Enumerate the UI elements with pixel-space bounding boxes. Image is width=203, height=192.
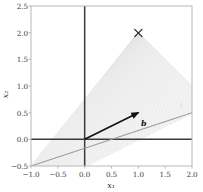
y-tick-label: 1.0 xyxy=(8,82,28,91)
y-tick-label: 2.5 xyxy=(8,2,28,11)
x-tick-label: 1.0 xyxy=(133,170,144,179)
x-axis-title: x₁ xyxy=(107,181,115,190)
y-tick-label: 1.5 xyxy=(8,55,28,64)
y-tick-label: −0.5 xyxy=(8,162,28,171)
plot-canvas xyxy=(0,0,203,192)
x-tick-label: 1.5 xyxy=(160,170,171,179)
y-tick-label: 0.5 xyxy=(8,108,28,117)
x-tick-label: −1.0 xyxy=(22,170,39,179)
y-tick-label: 2.0 xyxy=(8,28,28,37)
vector-b-label: b xyxy=(141,118,147,128)
constraint-line-label: l xyxy=(180,102,182,110)
plot-figure: −1.0−0.50.00.51.01.52.0 −0.50.00.51.01.5… xyxy=(0,0,203,192)
x-tick-label: −0.5 xyxy=(49,170,66,179)
x-tick-label: 2.0 xyxy=(186,170,197,179)
y-axis-title: x₂ xyxy=(1,91,10,99)
y-tick-label: 0.0 xyxy=(8,135,28,144)
x-tick-label: 0.0 xyxy=(79,170,90,179)
x-tick-label: 0.5 xyxy=(106,170,117,179)
